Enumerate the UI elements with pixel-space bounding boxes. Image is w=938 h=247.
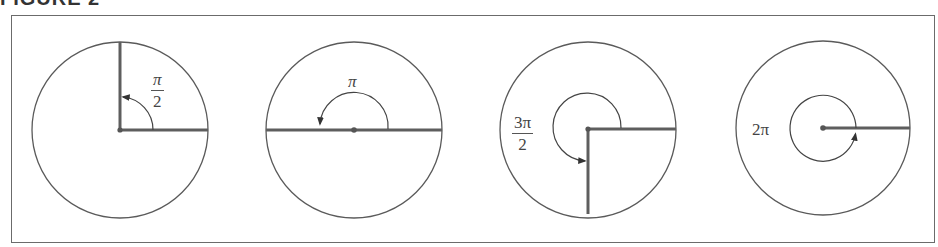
panel-quarter-turn xyxy=(32,42,208,218)
label-denominator: 2 xyxy=(153,91,162,110)
label-denominator: 2 xyxy=(518,134,527,153)
angle-label-pi-over-2: π 2 xyxy=(151,71,164,110)
label-numerator: π xyxy=(151,71,164,91)
center-point xyxy=(351,127,357,133)
angle-label-2pi: 2π xyxy=(752,121,769,138)
label-numerator: 3π xyxy=(512,114,533,134)
center-point xyxy=(585,126,590,131)
rotation-arc-arrow-icon xyxy=(320,92,388,129)
center-point xyxy=(117,127,122,132)
rotation-arc-arrow-icon xyxy=(123,97,153,130)
panel-half-turn xyxy=(266,42,442,218)
angle-label-pi: π xyxy=(348,73,357,90)
angle-diagram xyxy=(0,0,938,247)
center-point xyxy=(820,125,826,131)
angle-label-3pi-over-2: 3π 2 xyxy=(512,114,533,153)
